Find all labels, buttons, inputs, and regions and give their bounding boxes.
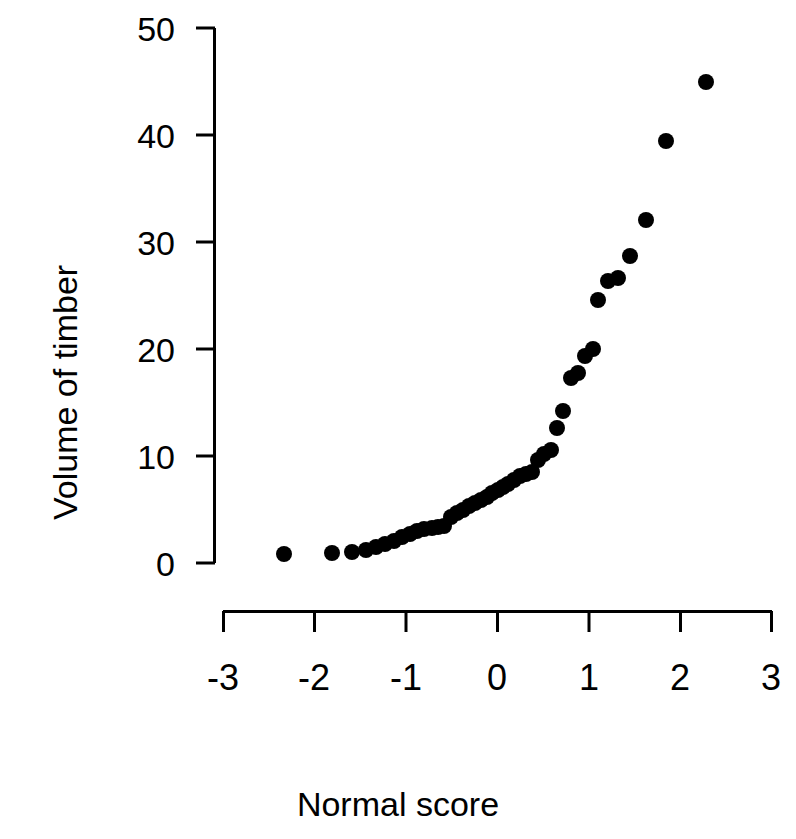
y-axis-ticks: [196, 28, 215, 563]
x-tick-label-2: 2: [640, 660, 720, 696]
x-axis-label: Normal score: [0, 785, 796, 824]
y-tick-label-40: 40: [85, 119, 175, 153]
y-tick-label-0: 0: [85, 547, 175, 581]
x-tick-label-0: 0: [457, 660, 537, 696]
y-tick-label-10: 10: [85, 440, 175, 474]
y-axis-label-wrap: Volume of timber: [0, 0, 60, 600]
x-axis-ticks: [224, 611, 772, 632]
y-tick-label-20: 20: [85, 333, 175, 367]
y-axis-label: Volume of timber: [46, 265, 85, 520]
y-tick-label-30: 30: [85, 226, 175, 260]
x-tick-label-1: 1: [549, 660, 629, 696]
x-tick-label-3: 3: [731, 660, 796, 696]
x-tick-label-neg2: -2: [274, 660, 354, 696]
y-tick-label-50: 50: [85, 12, 175, 46]
x-tick-label-neg3: -3: [183, 660, 263, 696]
x-tick-label-neg1: -1: [366, 660, 446, 696]
scatter-chart: 0 10 20 30 40 50 -3 -2 -1 0 1 2 3 Volume…: [0, 0, 796, 839]
